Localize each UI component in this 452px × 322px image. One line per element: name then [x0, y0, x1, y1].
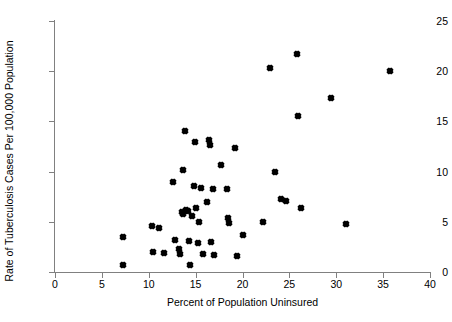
data-point	[188, 212, 195, 219]
data-point	[200, 250, 207, 257]
data-point	[190, 182, 197, 189]
x-tick-label: 20	[228, 279, 258, 290]
data-point	[294, 113, 301, 120]
data-point	[170, 178, 177, 185]
plot-area	[55, 21, 430, 272]
data-point	[223, 185, 230, 192]
x-tick-label: 40	[415, 279, 445, 290]
x-tick-label: 5	[87, 279, 117, 290]
data-point	[266, 65, 273, 72]
data-point	[206, 142, 213, 149]
data-point	[149, 248, 156, 255]
x-tick-label: 15	[181, 279, 211, 290]
x-tick-label: 35	[368, 279, 398, 290]
data-point	[180, 166, 187, 173]
data-point	[282, 197, 289, 204]
data-point	[148, 222, 155, 229]
x-tick-label: 25	[274, 279, 304, 290]
x-tick-label: 10	[134, 279, 164, 290]
data-point	[260, 218, 267, 225]
y-tick-mark	[49, 121, 54, 122]
y-tick-mark	[49, 71, 54, 72]
data-point	[217, 161, 224, 168]
data-point	[192, 204, 199, 211]
x-tick-label: 0	[40, 279, 70, 290]
data-point	[160, 249, 167, 256]
data-point	[198, 184, 205, 191]
data-point	[120, 233, 127, 240]
y-tick-mark	[49, 21, 54, 22]
data-point	[233, 252, 240, 259]
data-point	[186, 237, 193, 244]
data-point	[211, 251, 218, 258]
data-point	[386, 68, 393, 75]
data-point	[209, 185, 216, 192]
x-axis-title: Percent of Population Uninsured	[55, 296, 430, 308]
data-point	[239, 231, 246, 238]
scatter-chart-figure: Rate of Tuberculosis Cases Per 100,000 P…	[0, 0, 452, 322]
data-point	[297, 204, 304, 211]
y-tick-mark	[49, 222, 54, 223]
data-point	[203, 198, 210, 205]
data-point	[327, 95, 334, 102]
data-point	[191, 139, 198, 146]
data-point	[182, 128, 189, 135]
data-point	[342, 220, 349, 227]
x-tick-label: 30	[321, 279, 351, 290]
data-point	[226, 219, 233, 226]
data-point	[196, 218, 203, 225]
y-tick-mark	[49, 272, 54, 273]
data-point	[186, 261, 193, 268]
data-point	[207, 238, 214, 245]
data-point	[272, 168, 279, 175]
data-point	[293, 51, 300, 58]
y-tick-mark	[49, 172, 54, 173]
data-point	[194, 239, 201, 246]
data-point	[120, 261, 127, 268]
data-point	[176, 250, 183, 257]
data-point	[231, 144, 238, 151]
data-point	[171, 236, 178, 243]
y-axis-title: Rate of Tuberculosis Cases Per 100,000 P…	[0, 0, 18, 322]
data-point	[156, 224, 163, 231]
